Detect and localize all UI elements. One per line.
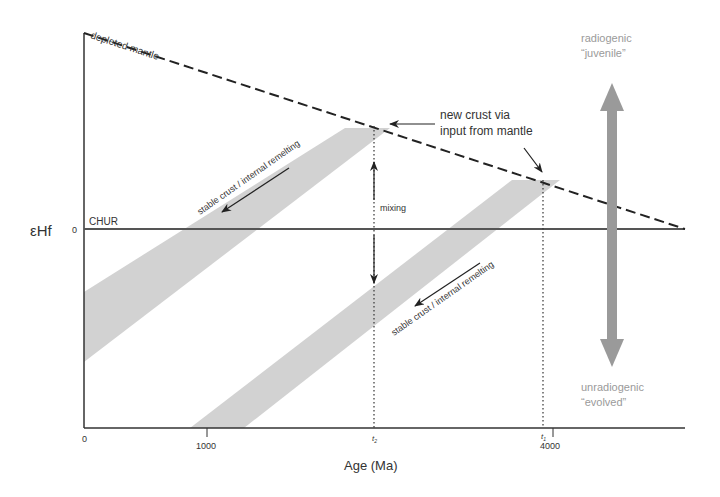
depleted-mantle-line [84, 33, 685, 229]
chur-label: CHUR [89, 216, 118, 227]
juvenile-label: “juvenile” [581, 47, 626, 59]
mixing-label: mixing [380, 203, 406, 213]
depleted-mantle-label: depleted mantle [89, 29, 160, 62]
evolved-label: “evolved” [581, 396, 627, 408]
hf-evolution-diagram: εHf 0 CHUR depleted mantle 0 1000 4000 t… [0, 0, 720, 497]
x-tick-label-0: 0 [82, 434, 87, 444]
new-crust-label-line2: input from mantle [440, 124, 533, 138]
new-crust-arrow-t1 [524, 148, 542, 172]
t1-label: t1 [541, 432, 546, 442]
radiogenic-label: radiogenic [581, 32, 632, 44]
unradiogenic-label: unradiogenic [581, 381, 644, 393]
new-crust-label-line1: new crust via [440, 108, 510, 122]
x-tick-label-4000: 4000 [540, 441, 560, 451]
y-zero-label: 0 [72, 225, 77, 235]
y-axis-label: εHf [30, 222, 53, 239]
x-axis-label: Age (Ma) [344, 458, 397, 473]
t2-label: t2 [372, 434, 377, 444]
x-tick-label-1000: 1000 [196, 441, 216, 451]
radiogenic-scale-arrow [600, 83, 624, 367]
